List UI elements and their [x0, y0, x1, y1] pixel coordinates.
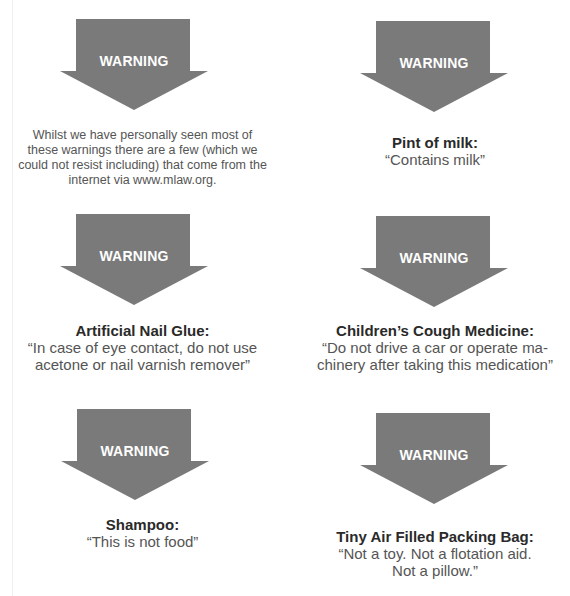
- caption-title: Artificial Nail Glue:: [0, 322, 285, 339]
- warning-caption-shampoo: Shampoo: “This is not food”: [0, 516, 285, 550]
- caption-title: Shampoo:: [0, 516, 285, 533]
- caption-quote: “Not a toy. Not a flotation aid.: [300, 545, 570, 562]
- warning-caption-milk: Pint of milk: “Contains milk”: [300, 134, 570, 168]
- warning-caption-cough-medicine: Children’s Cough Medicine: “Do not drive…: [300, 322, 570, 373]
- caption-quote: “This is not food”: [0, 533, 285, 550]
- warning-arrow-3: WARNING: [59, 214, 209, 306]
- warning-arrow-6: WARNING: [359, 413, 509, 505]
- warning-label: WARNING: [359, 55, 509, 71]
- page-edge-line: [12, 0, 13, 596]
- warning-arrow-5: WARNING: [60, 409, 210, 501]
- intro-line: could not resist including) that come fr…: [0, 158, 285, 173]
- caption-quote: “Do not drive a car or operate ma-: [300, 339, 570, 356]
- warning-caption-packing-bag: Tiny Air Filled Packing Bag: “Not a toy.…: [300, 528, 570, 579]
- caption-quote: acetone or nail varnish remover”: [0, 356, 285, 373]
- warning-label: WARNING: [60, 443, 210, 459]
- intro-line: Whilst we have personally seen most of: [0, 128, 285, 143]
- warning-label: WARNING: [359, 250, 509, 266]
- caption-quote: “Contains milk”: [300, 151, 570, 168]
- warning-label: WARNING: [59, 248, 209, 264]
- warning-caption-nail-glue: Artificial Nail Glue: “In case of eye co…: [0, 322, 285, 373]
- warning-arrow-2: WARNING: [359, 21, 509, 113]
- intro-line: internet via www.mlaw.org.: [0, 173, 285, 188]
- warning-label: WARNING: [359, 447, 509, 463]
- caption-quote: “In case of eye contact, do not use: [0, 339, 285, 356]
- caption-quote: Not a pillow.”: [300, 562, 570, 579]
- warning-label: WARNING: [59, 53, 209, 69]
- warning-arrow-4: WARNING: [359, 216, 509, 308]
- intro-text: Whilst we have personally seen most of t…: [0, 128, 285, 188]
- caption-title: Children’s Cough Medicine:: [300, 322, 570, 339]
- intro-line: these warnings there are a few (which we: [0, 143, 285, 158]
- caption-quote: chinery after taking this medication”: [300, 356, 570, 373]
- warning-arrow-1: WARNING: [59, 19, 209, 111]
- caption-title: Pint of milk:: [300, 134, 570, 151]
- caption-title: Tiny Air Filled Packing Bag:: [300, 528, 570, 545]
